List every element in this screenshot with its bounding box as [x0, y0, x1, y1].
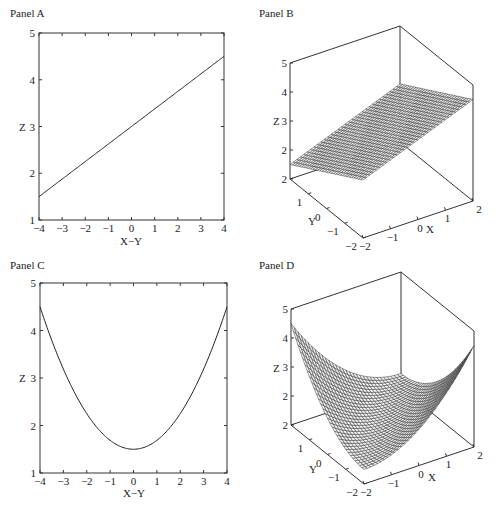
y-tick-label: −1: [327, 225, 339, 237]
z-tick-label: 5: [282, 57, 288, 69]
z-tick-label: 3: [283, 361, 289, 373]
y-tick-label: 2: [31, 420, 37, 432]
x-tick-label: 2: [476, 203, 482, 215]
x-tick-label: 1: [445, 212, 451, 224]
z-tick-label: 3: [282, 115, 288, 127]
panel-d-y-axis-label: Y: [309, 463, 317, 475]
panel-c-ticks: [40, 283, 227, 473]
panel-c-title: Panel C: [10, 259, 45, 271]
figure: Panel A −4−3−2−101234 12345 X−Y Z Panel …: [0, 0, 496, 510]
x-tick-label: 2: [178, 475, 184, 487]
panel-a-title: Panel A: [10, 7, 45, 19]
x-tick-label: 3: [198, 222, 204, 234]
y-tick-mark: [328, 454, 331, 455]
x-tick-mark: [418, 463, 419, 466]
panel-c-x-tick-labels: −4−3−2−101234: [34, 475, 230, 487]
panel-b-y-axis-label: Y: [308, 215, 316, 227]
y-tick-mark: [345, 222, 348, 223]
y-tick-label: 4: [30, 74, 36, 86]
z-tick-label: 2: [282, 144, 288, 156]
x-tick-label: 1: [154, 475, 160, 487]
x-tick-label: −1: [103, 222, 115, 234]
x-tick-label: 1: [446, 458, 452, 470]
x-tick-mark: [391, 472, 392, 475]
panel-c-x-axis-label: X−Y: [123, 487, 145, 499]
x-tick-mark: [417, 217, 418, 220]
panel-a-x-axis-label: X−Y: [120, 235, 142, 247]
x-tick-label: 1: [152, 222, 158, 234]
y-tick-mark: [327, 208, 330, 209]
x-tick-mark: [390, 226, 391, 229]
panel-b-x-axis-label: X: [426, 223, 434, 235]
x-tick-label: 3: [201, 475, 207, 487]
panel-d-z-axis-label: Z: [273, 362, 280, 374]
box-edge: [401, 272, 474, 331]
z-tick-label: 2: [283, 390, 289, 402]
y-tick-mark: [309, 439, 312, 440]
panel-b-title: Panel B: [259, 7, 294, 19]
x-tick-label: 0: [418, 468, 424, 480]
y-tick-label: 1: [297, 196, 303, 208]
x-tick-label: 2: [175, 222, 181, 234]
y-tick-label: 4: [31, 325, 37, 337]
y-tick-mark: [308, 193, 311, 194]
x-tick-label: −2: [360, 486, 372, 498]
x-tick-label: −3: [56, 222, 68, 234]
panel-c-plot-frame: [40, 283, 227, 473]
z-tick-label: 5: [283, 303, 289, 315]
panel-c-data-curve: [40, 307, 227, 450]
panel-d: Panel D 22345−2−101−2−1012 Z Y X: [259, 259, 483, 498]
x-tick-label: 0: [131, 475, 137, 487]
y-tick-label: 1: [298, 442, 304, 454]
y-tick-mark: [363, 237, 366, 238]
box-edge: [400, 26, 473, 85]
y-tick-label: 5: [31, 277, 37, 289]
z-tick-label: 2: [283, 419, 289, 431]
x-tick-label: −1: [388, 477, 400, 489]
z-tick-label: 2: [282, 173, 288, 185]
y-tick-label: 5: [30, 27, 36, 39]
y-tick-label: 3: [31, 372, 37, 384]
x-tick-mark: [445, 207, 446, 210]
panel-b-surface-mesh: [290, 84, 473, 180]
y-tick-label: −1: [328, 471, 340, 483]
x-tick-label: −1: [387, 231, 399, 243]
panel-c: Panel C −4−3−2−101234 12345 X−Y Z: [10, 259, 230, 499]
x-tick-label: 4: [224, 475, 230, 487]
panel-a: Panel A −4−3−2−101234 12345 X−Y Z: [10, 7, 227, 247]
x-tick-label: 0: [129, 222, 135, 234]
x-tick-label: −2: [79, 222, 91, 234]
y-tick-label: 1: [30, 214, 36, 226]
panel-d-x-axis-label: X: [428, 471, 436, 483]
x-tick-label: 2: [477, 449, 483, 461]
panel-a-data-line: [39, 56, 224, 196]
box-edge: [290, 26, 400, 63]
panel-b-z-axis-label: Z: [273, 115, 280, 127]
box-edge: [400, 142, 473, 201]
y-tick-label: −2: [345, 240, 357, 252]
y-tick-mark: [364, 483, 367, 484]
y-tick-label: 2: [30, 167, 36, 179]
x-tick-label: 4: [221, 222, 227, 234]
z-tick-label: 4: [282, 86, 288, 98]
panel-a-y-tick-labels: 12345: [30, 27, 36, 226]
y-tick-label: 3: [30, 121, 36, 133]
panel-a-x-tick-labels: −4−3−2−101234: [33, 222, 227, 234]
x-tick-label: −3: [58, 475, 70, 487]
x-tick-label: −2: [81, 475, 93, 487]
x-tick-mark: [446, 453, 447, 456]
panel-d-title: Panel D: [259, 259, 294, 271]
x-tick-label: −1: [104, 475, 116, 487]
y-tick-label: −2: [346, 486, 358, 498]
panel-b: Panel B 22345−2−101−2−1012 Z Y X: [259, 7, 482, 252]
panel-c-y-axis-label: Z: [19, 372, 26, 384]
box-edge: [291, 272, 401, 309]
panel-c-y-tick-labels: 12345: [31, 277, 37, 479]
z-tick-label: 4: [283, 332, 289, 344]
y-tick-label: 1: [31, 467, 37, 479]
panel-a-y-axis-label: Z: [19, 121, 26, 133]
x-tick-label: −2: [359, 240, 371, 252]
x-tick-label: 0: [417, 222, 423, 234]
y-tick-mark: [346, 468, 349, 469]
